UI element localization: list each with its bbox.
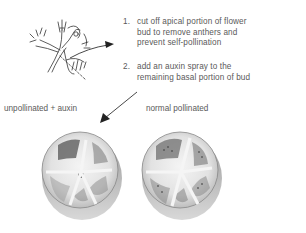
step-2-line-2: remaining basal portion of bud bbox=[137, 73, 250, 83]
step-2: 2. add an auxin spray to the remaining b… bbox=[123, 62, 293, 86]
label-unpollinated-auxin: unpollinated + auxin bbox=[4, 104, 77, 113]
step-2-line-1: add an auxin spray to the bbox=[137, 62, 231, 72]
label-normal-pollinated: normal pollinated bbox=[146, 104, 208, 113]
flower-bud-icon bbox=[30, 20, 90, 80]
step-2-number: 2. bbox=[123, 62, 130, 72]
arrow-to-steps bbox=[70, 45, 108, 58]
tomato-pollinated-icon bbox=[142, 132, 222, 220]
arrow-head-icon bbox=[100, 113, 110, 123]
step-1-line-2: bud to remove anthers and bbox=[137, 28, 237, 38]
step-1-line-1: cut off apical portion of flower bbox=[137, 17, 247, 27]
diagram-canvas: 1. cut off apical portion of flower bud … bbox=[0, 0, 306, 233]
tomato-unpollinated-icon bbox=[42, 132, 122, 220]
arrow-to-left-fruit bbox=[105, 92, 137, 118]
step-1-line-3: prevent self-pollination bbox=[137, 38, 221, 48]
arrow-head-icon bbox=[105, 41, 114, 48]
step-1: 1. cut off apical portion of flower bud … bbox=[123, 17, 293, 51]
step-1-number: 1. bbox=[123, 17, 130, 27]
